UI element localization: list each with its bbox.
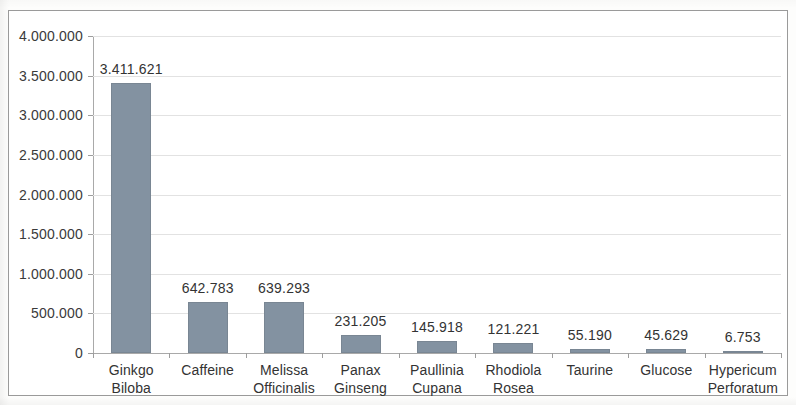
- y-axis-tick-label: 0: [0, 345, 83, 361]
- bar: [341, 335, 381, 353]
- gridline: [93, 115, 781, 116]
- bar: [570, 349, 610, 353]
- plot-area: [93, 36, 781, 353]
- x-axis-tick-mark: [322, 353, 323, 358]
- y-tick-mark: [88, 313, 93, 314]
- x-axis-category-label: Ginkgo Biloba: [109, 361, 154, 397]
- x-axis-tick-mark: [628, 353, 629, 358]
- x-axis-category-label: Glucose: [640, 361, 692, 379]
- gridline: [93, 155, 781, 156]
- bar-value-label: 642.783: [182, 280, 234, 296]
- x-axis-tick-mark: [399, 353, 400, 358]
- x-axis-category-label: Caffeine: [181, 361, 234, 379]
- x-axis-tick-mark: [93, 353, 94, 358]
- gridline: [93, 76, 781, 77]
- y-tick-mark: [88, 195, 93, 196]
- y-axis-tick-label: 2.500.000: [0, 147, 83, 163]
- y-axis-tick-label: 1.000.000: [0, 266, 83, 282]
- x-axis-category-label: Taurine: [567, 361, 614, 379]
- bar: [188, 302, 228, 353]
- bar-value-label: 145.918: [411, 319, 463, 335]
- x-axis-tick-mark: [552, 353, 553, 358]
- x-axis-tick-mark: [246, 353, 247, 358]
- y-tick-mark: [88, 36, 93, 37]
- x-axis-category-label: Hypericum Perforatum: [708, 361, 778, 397]
- bar: [111, 83, 151, 353]
- y-axis-tick-label: 500.000: [0, 305, 83, 321]
- y-tick-mark: [88, 155, 93, 156]
- bar-value-label: 121.221: [487, 321, 539, 337]
- x-axis-category-label: Panax Ginseng: [334, 361, 387, 397]
- x-axis-tick-mark: [169, 353, 170, 358]
- bar: [493, 343, 533, 353]
- y-axis-tick-label: 2.000.000: [0, 187, 83, 203]
- y-tick-mark: [88, 115, 93, 116]
- x-axis-tick-mark: [781, 353, 782, 358]
- y-axis-tick-label: 3.500.000: [0, 68, 83, 84]
- x-axis-category-label: Melissa Officinalis: [253, 361, 315, 397]
- x-axis-tick-mark: [475, 353, 476, 358]
- gridline: [93, 36, 781, 37]
- y-tick-mark: [88, 274, 93, 275]
- y-tick-mark: [88, 76, 93, 77]
- x-axis-category-label: Rhodiola Rosea: [485, 361, 541, 397]
- gridline: [93, 274, 781, 275]
- bar: [264, 302, 304, 353]
- y-axis-tick-label: 4.000.000: [0, 28, 83, 44]
- bar: [723, 351, 763, 353]
- bar-value-label: 3.411.621: [100, 61, 163, 77]
- x-axis-baseline: [93, 353, 781, 354]
- chart-frame: 0500.0001.000.0001.500.0002.000.0002.500…: [8, 10, 788, 396]
- bar-value-label: 45.629: [644, 327, 688, 343]
- bar-value-label: 231.205: [335, 313, 387, 329]
- bar: [646, 349, 686, 353]
- x-axis-category-label: Paullinia Cupana: [410, 361, 464, 397]
- x-axis-tick-mark: [705, 353, 706, 358]
- bar: [417, 341, 457, 353]
- gridline: [93, 195, 781, 196]
- y-axis-tick-label: 1.500.000: [0, 226, 83, 242]
- scanned-page-background: 0500.0001.000.0001.500.0002.000.0002.500…: [0, 0, 796, 405]
- gridline: [93, 234, 781, 235]
- y-axis-tick-label: 3.000.000: [0, 107, 83, 123]
- bar-value-label: 55.190: [568, 327, 612, 343]
- y-tick-mark: [88, 234, 93, 235]
- bar-value-label: 6.753: [725, 329, 761, 345]
- bar-value-label: 639.293: [258, 280, 310, 296]
